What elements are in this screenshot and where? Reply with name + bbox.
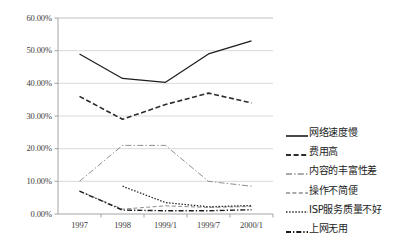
- legend-item-label: ISP服务质量不好: [309, 201, 382, 216]
- legend-line-swatch: [286, 223, 308, 233]
- legend-line-swatch: [286, 184, 308, 194]
- legend-item[interactable]: 网络速度慢: [286, 122, 414, 141]
- chart-legend: 网络速度慢费用高内容的丰富性差操作不简便ISP服务质量不好上网无用: [286, 122, 414, 237]
- y-tick-label: 20.00%: [0, 143, 52, 153]
- legend-item-label: 网络速度慢: [309, 124, 358, 139]
- series-line-1: [80, 93, 252, 119]
- legend-item[interactable]: ISP服务质量不好: [286, 199, 414, 218]
- legend-item-label: 操作不简便: [309, 182, 358, 197]
- series-line-0: [80, 41, 252, 82]
- legend-line-swatch: [286, 203, 308, 213]
- legend-line-swatch: [286, 146, 308, 156]
- legend-item-label: 费用高: [309, 143, 338, 158]
- y-tick-label: 40.00%: [0, 78, 52, 88]
- series-line-5: [80, 191, 252, 211]
- y-tick-label: 0.00%: [0, 209, 52, 219]
- x-tick-label: 2000/1: [224, 220, 280, 230]
- data-series: [80, 41, 252, 211]
- x-tick-marks: [101, 214, 273, 218]
- y-tick-label: 60.00%: [0, 13, 52, 23]
- legend-item-label: 上网无用: [309, 220, 348, 235]
- y-tick-marks: [55, 18, 59, 214]
- line-chart: 0.00%10.00%20.00%30.00%40.00%50.00%60.00…: [0, 0, 414, 250]
- legend-item-label: 内容的丰富性差: [309, 162, 377, 177]
- legend-item[interactable]: 上网无用: [286, 218, 414, 237]
- y-tick-label: 50.00%: [0, 45, 52, 55]
- legend-item[interactable]: 操作不简便: [286, 180, 414, 199]
- y-tick-label: 30.00%: [0, 111, 52, 121]
- y-tick-label: 10.00%: [0, 176, 52, 186]
- series-line-4: [123, 186, 252, 207]
- legend-item[interactable]: 内容的丰富性差: [286, 160, 414, 179]
- legend-line-swatch: [286, 165, 308, 175]
- series-line-2: [80, 145, 252, 186]
- legend-line-swatch: [286, 127, 308, 137]
- legend-item[interactable]: 费用高: [286, 141, 414, 160]
